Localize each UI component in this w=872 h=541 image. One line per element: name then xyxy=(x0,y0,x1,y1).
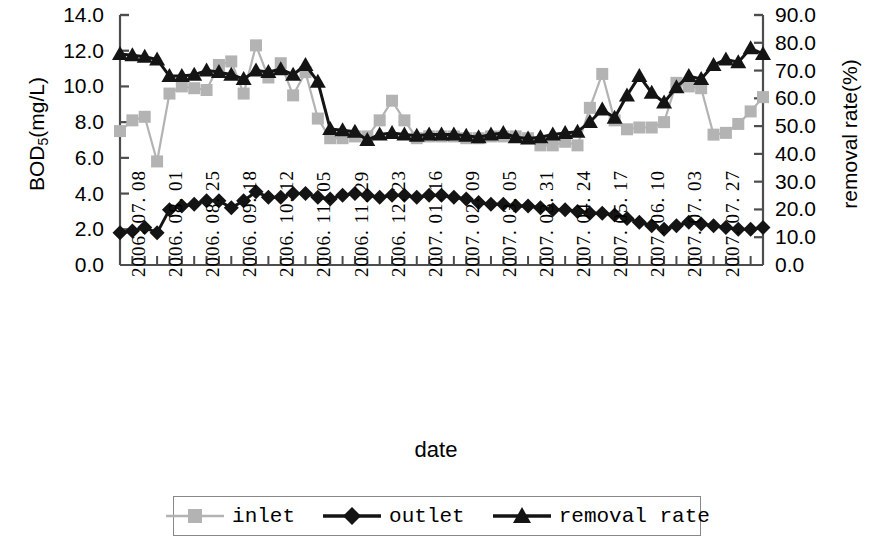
outlet-data-point xyxy=(174,199,189,214)
left-axis-tick-label: 0.0 xyxy=(32,254,104,275)
inlet-data-point xyxy=(745,105,757,117)
removal-rate-data-point xyxy=(631,68,647,82)
removal-rate-data-point xyxy=(297,57,313,71)
inlet-data-point xyxy=(176,80,188,92)
right-axis-tick-label: 0.0 xyxy=(775,254,847,275)
right-axis-tick-label: 10.0 xyxy=(775,226,847,247)
right-axis-tick-label: 70.0 xyxy=(775,60,847,81)
triangle-marker xyxy=(491,505,553,527)
inlet-data-point xyxy=(386,95,398,107)
right-axis-tick-label: 30.0 xyxy=(775,171,847,192)
legend-diamond xyxy=(343,507,361,525)
inlet-data-point xyxy=(658,116,670,128)
legend-item[interactable]: removal rate xyxy=(491,505,710,528)
inlet-data-point xyxy=(596,68,608,80)
outlet-data-point xyxy=(298,186,313,201)
removal-rate-data-point xyxy=(594,101,610,115)
outlet-data-point xyxy=(521,199,536,214)
left-axis-tick-label: 6.0 xyxy=(32,147,104,168)
outlet-data-point xyxy=(459,191,474,206)
outlet-data-point xyxy=(162,202,177,217)
inlet-data-point xyxy=(683,80,695,92)
right-axis-tick-label: 80.0 xyxy=(775,32,847,53)
outlet-data-point xyxy=(347,186,362,201)
outlet-data-point xyxy=(273,190,288,205)
outlet-data-point xyxy=(323,191,338,206)
x-axis-title: date xyxy=(0,437,872,463)
chart-figure: BOD5(mg/L) removal rate(%) 0.02.04.06.08… xyxy=(0,0,872,541)
left-axis-tick-label: 8.0 xyxy=(32,111,104,132)
outlet-data-point xyxy=(335,188,350,203)
outlet-data-point xyxy=(632,215,647,230)
outlet-data-point xyxy=(372,190,387,205)
series-outlet xyxy=(113,184,771,240)
inlet-data-point xyxy=(720,127,732,139)
inlet-data-point xyxy=(312,113,324,125)
inlet-data-point xyxy=(398,114,410,126)
left-axis-tick-label: 2.0 xyxy=(32,218,104,239)
inlet-data-point xyxy=(151,155,163,167)
outlet-data-point xyxy=(694,216,709,231)
left-axis-tick-label: 12.0 xyxy=(32,40,104,61)
inlet-data-point xyxy=(584,102,596,114)
inlet-data-point xyxy=(708,129,720,141)
outlet-data-point xyxy=(743,222,758,237)
removal-rate-data-point xyxy=(199,63,215,77)
removal-rate-data-point xyxy=(112,46,128,60)
chart-legend: inletoutletremoval rate xyxy=(173,496,701,536)
outlet-data-point xyxy=(471,195,486,210)
inlet-data-point xyxy=(238,88,250,100)
inlet-data-point xyxy=(374,114,386,126)
square-marker xyxy=(164,505,226,527)
right-axis-tick-labels: 0.010.020.030.040.050.060.070.080.090.0 xyxy=(775,0,847,290)
outlet-data-point xyxy=(681,215,696,230)
inlet-data-point xyxy=(201,84,213,96)
legend-item[interactable]: inlet xyxy=(164,505,295,528)
legend-label: outlet xyxy=(389,505,465,528)
left-axis-tick-label: 10.0 xyxy=(32,75,104,96)
removal-rate-data-point xyxy=(619,88,635,102)
outlet-data-point xyxy=(756,220,771,235)
inlet-data-point xyxy=(250,39,262,51)
outlet-data-point xyxy=(669,218,684,233)
outlet-data-point xyxy=(224,200,239,215)
outlet-data-point xyxy=(718,220,733,235)
right-axis-tick-label: 40.0 xyxy=(775,143,847,164)
right-axis-tick-label: 50.0 xyxy=(775,115,847,136)
outlet-data-point xyxy=(570,204,585,219)
inlet-data-point xyxy=(126,114,138,126)
outlet-data-point xyxy=(607,208,622,223)
legend-label: removal rate xyxy=(559,505,710,528)
inlet-data-point xyxy=(621,123,633,135)
outlet-data-point xyxy=(558,202,573,217)
series-inlet xyxy=(114,39,769,167)
outlet-data-point xyxy=(496,197,511,212)
outlet-data-point xyxy=(113,225,128,240)
legend-square xyxy=(188,509,202,523)
removal-rate-data-point xyxy=(384,125,400,139)
legend-label: inlet xyxy=(232,505,295,528)
left-axis-tick-label: 4.0 xyxy=(32,183,104,204)
inlet-data-point xyxy=(188,82,200,94)
inlet-data-point xyxy=(572,139,584,151)
outlet-data-point xyxy=(446,190,461,205)
outlet-data-point xyxy=(657,222,672,237)
inlet-data-point xyxy=(633,122,645,134)
outlet-data-point xyxy=(533,200,548,215)
inlet-data-point xyxy=(163,88,175,100)
left-axis-tick-label: 14.0 xyxy=(32,4,104,25)
right-axis-tick-label: 60.0 xyxy=(775,87,847,108)
diamond-marker xyxy=(321,505,383,527)
legend-item[interactable]: outlet xyxy=(321,505,465,528)
outlet-data-point xyxy=(125,224,140,239)
outlet-data-point xyxy=(706,218,721,233)
outlet-data-point xyxy=(644,218,659,233)
inlet-data-point xyxy=(114,125,126,137)
outlet-data-point xyxy=(409,190,424,205)
inlet-data-point xyxy=(757,91,769,103)
inlet-data-point xyxy=(139,111,151,123)
inlet-data-point xyxy=(732,118,744,130)
inlet-data-point xyxy=(646,122,658,134)
inlet-data-point xyxy=(225,55,237,67)
removal-rate-data-point xyxy=(681,68,697,82)
